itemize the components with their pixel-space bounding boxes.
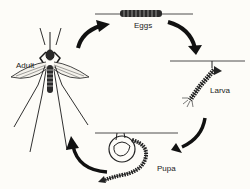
arrow-adult-to-eggs — [78, 20, 110, 48]
eggs-illustration — [95, 10, 193, 17]
adult-label: Adult — [16, 62, 34, 70]
pupa-illustration — [95, 133, 178, 183]
larva-label: Larva — [210, 87, 230, 95]
larva-illustration — [170, 61, 245, 107]
eggs-label: Eggs — [134, 22, 152, 30]
arrow-pupa-to-adult — [66, 136, 107, 172]
pupa-label: Pupa — [157, 165, 176, 173]
arrow-eggs-to-larva — [168, 22, 202, 55]
arrow-larva-to-pupa — [171, 118, 205, 153]
